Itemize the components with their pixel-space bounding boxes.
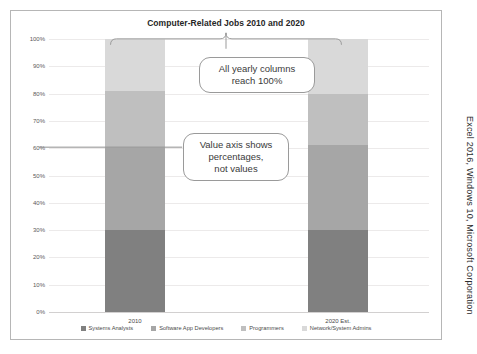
y-axis-tick-label: 100%	[30, 36, 45, 42]
source-caption: Excel 2016, Windows 10, Microsoft Corpor…	[465, 116, 475, 315]
column-segment[interactable]	[308, 39, 368, 94]
column-segment[interactable]	[105, 148, 165, 230]
legend-item[interactable]: Systems Analysts	[81, 325, 134, 331]
callout-value-axis-percentages: Value axis shows percentages, not values	[183, 133, 289, 181]
column-2020-est[interactable]: 2020 Est.	[308, 39, 368, 312]
callout-line: reach 100%	[209, 75, 305, 87]
y-axis-tick-label: 90%	[33, 63, 45, 69]
legend-swatch-icon	[81, 326, 86, 331]
callout-line: All yearly columns	[209, 63, 305, 75]
category-label-2020-est: 2020 Est.	[308, 318, 368, 324]
legend-item[interactable]: Programmers	[241, 325, 283, 331]
legend-label: Programmers	[249, 325, 283, 331]
chart-frame: Computer-Related Jobs 2010 and 2020 100%…	[10, 10, 442, 340]
column-2010[interactable]: 2010	[105, 39, 165, 312]
chart-legend: Systems AnalystsSoftware App DevelopersP…	[11, 325, 441, 331]
legend-item[interactable]: Software App Developers	[151, 325, 223, 331]
y-axis-tick-label: 60%	[33, 145, 45, 151]
gridline	[49, 312, 429, 313]
column-segment[interactable]	[105, 230, 165, 312]
y-axis-tick-label: 30%	[33, 227, 45, 233]
column-segment[interactable]	[308, 94, 368, 146]
y-axis-tick-label: 0%	[36, 309, 45, 315]
legend-label: Systems Analysts	[89, 325, 134, 331]
chart-title: Computer-Related Jobs 2010 and 2020	[11, 18, 441, 28]
y-axis-tick-label: 20%	[33, 254, 45, 260]
y-axis-tick-label: 10%	[33, 282, 45, 288]
legend-label: Software App Developers	[159, 325, 223, 331]
column-segment[interactable]	[105, 39, 165, 91]
callout-line: not values	[193, 163, 279, 175]
legend-label: Network/System Admins	[310, 325, 372, 331]
callout-all-columns-reach-100: All yearly columns reach 100%	[199, 57, 315, 93]
column-segment[interactable]	[105, 91, 165, 148]
callout-line: Value axis shows	[193, 139, 279, 151]
y-axis-tick-label: 70%	[33, 118, 45, 124]
legend-swatch-icon	[302, 326, 307, 331]
legend-item[interactable]: Network/System Admins	[302, 325, 372, 331]
column-segment[interactable]	[308, 230, 368, 312]
legend-swatch-icon	[241, 326, 246, 331]
column-segment[interactable]	[308, 145, 368, 230]
callout-line: percentages,	[193, 151, 279, 163]
category-label-2010: 2010	[105, 318, 165, 324]
y-axis-tick-label: 50%	[33, 173, 45, 179]
legend-swatch-icon	[151, 326, 156, 331]
y-axis-tick-label: 80%	[33, 91, 45, 97]
y-axis-tick-label: 40%	[33, 200, 45, 206]
